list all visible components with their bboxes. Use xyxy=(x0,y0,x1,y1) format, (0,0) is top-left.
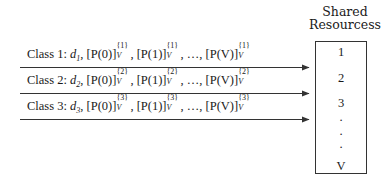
ellipsis: …, xyxy=(187,99,203,113)
term-pv: [P(V)] xyxy=(206,99,239,113)
term-p0: [P(0)] xyxy=(87,47,117,61)
term-pv-indices: {1}V xyxy=(238,48,252,58)
demand-subscript: 1 xyxy=(76,54,80,63)
term-p1-indices: {3}V xyxy=(167,100,181,110)
term-p1: [P(1)] xyxy=(137,73,167,87)
resource-item-v: V xyxy=(316,159,366,174)
term-pv-indices: {3}V xyxy=(238,100,252,110)
term-p0-indices: {1}V xyxy=(116,48,130,58)
demand-subscript: 3 xyxy=(76,106,80,115)
term-p0: [P(0)] xyxy=(87,73,117,87)
shared-resources-box: 1 2 3 · · · V xyxy=(315,41,367,174)
term-pv-indices: {2}V xyxy=(238,74,252,84)
resource-item-3: 3 xyxy=(316,96,366,111)
ellipsis: …, xyxy=(187,47,203,61)
demand-subscript: 2 xyxy=(76,80,80,89)
resource-ellipsis-dot: · xyxy=(316,140,366,155)
term-pv: [P(V)] xyxy=(206,73,239,87)
resource-ellipsis-dot: · xyxy=(316,113,366,128)
term-p0: [P(0)] xyxy=(87,99,117,113)
term-p1-indices: {1}V xyxy=(167,48,181,58)
term-p0-indices: {3}V xyxy=(116,100,130,110)
term-p1: [P(1)] xyxy=(137,47,167,61)
class-label: Class 3: xyxy=(27,99,67,113)
class-label: Class 1: xyxy=(27,47,67,61)
term-pv: [P(V)] xyxy=(206,47,239,61)
ellipsis: …, xyxy=(187,73,203,87)
class-label: Class 2: xyxy=(27,73,67,87)
resource-item-1: 1 xyxy=(316,45,366,60)
class-2-text: Class 2: d2, [P(0)]{2}V, [P(1)]{2}V, …, … xyxy=(27,73,252,88)
class-1-text: Class 1: d1, [P(0)]{1}V, [P(1)]{1}V, …, … xyxy=(27,47,252,62)
term-p1-indices: {2}V xyxy=(167,74,181,84)
resource-item-2: 2 xyxy=(316,71,366,86)
term-p0-indices: {2}V xyxy=(116,74,130,84)
term-p1: [P(1)] xyxy=(137,99,167,113)
class-3-text: Class 3: d3, [P(0)]{3}V, [P(1)]{3}V, …, … xyxy=(27,99,252,114)
